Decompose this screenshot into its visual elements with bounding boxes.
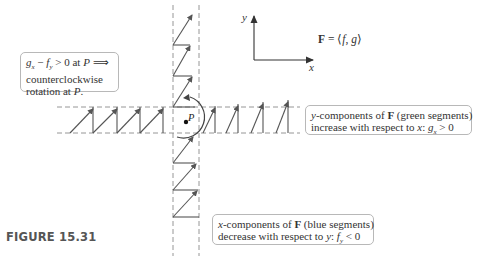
axes-icon [254,16,313,60]
point-p-label: P [188,112,194,123]
x-axis-label: x [309,61,314,73]
field-symbol: F [318,33,325,45]
y-components-callout: y-components of F (green segments) incre… [305,105,472,135]
horizontal-vector-row [70,100,288,133]
curl-callout-line1: gx − fy > 0 at P ⟹ [26,56,113,73]
curl-callout: gx − fy > 0 at P ⟹ counterclockwise rota… [20,52,119,92]
y-axis-label: y [242,11,247,23]
x-callout-line2: decrease with respect to y: fy < 0 [218,230,368,247]
vertical-dashed-guides [173,5,199,256]
y-callout-line2: increase with respect to x: gx > 0 [311,121,466,138]
figure-label: FIGURE 15.31 [6,230,96,244]
vertical-vector-column [173,15,199,217]
y-callout-line1: y-components of F (green segments) [311,109,466,121]
field-equation: F = ⟨f, g⟩ [318,32,362,46]
equation-text: = ⟨ [325,33,342,45]
equation-close: ⟩ [357,33,362,45]
x-components-callout: x-components of F (blue segments) decrea… [212,214,374,245]
curl-callout-line2: counterclockwise [26,73,113,85]
curl-callout-line3: rotation at P. [26,85,113,97]
x-callout-line1: x-components of F (blue segments) [218,218,368,230]
